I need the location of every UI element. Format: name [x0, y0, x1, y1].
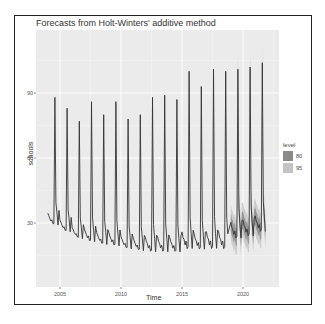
x-axis-label: Time [146, 294, 161, 301]
svg-text:2010: 2010 [115, 291, 127, 297]
legend-title: level [283, 142, 302, 148]
legend-swatch-80 [283, 151, 293, 161]
legend-item-95: 95 [283, 163, 302, 173]
plot-area: 2005201020152020306090 [0, 0, 325, 324]
svg-text:2005: 2005 [54, 291, 66, 297]
legend-item-80: 80 [283, 151, 302, 161]
y-axis-label: schools [27, 134, 34, 174]
svg-text:2020: 2020 [237, 291, 249, 297]
legend-swatch-95 [283, 163, 293, 173]
svg-text:30: 30 [27, 220, 33, 226]
svg-text:90: 90 [27, 90, 33, 96]
svg-text:2015: 2015 [176, 291, 188, 297]
legend: level 80 95 [283, 142, 302, 175]
